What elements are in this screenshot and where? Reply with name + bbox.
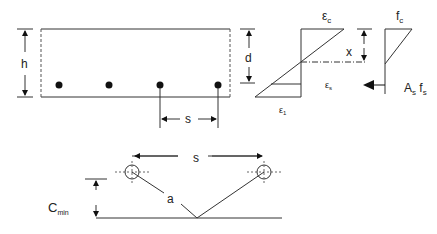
crack-width-diagram: h s d εc εs ε1 x (0, 0, 437, 234)
steel-force-label: As fs (404, 81, 427, 97)
concrete-stress-label: fc (396, 9, 403, 25)
spacing-label: s (185, 112, 191, 126)
height-label: h (21, 57, 28, 71)
cover-label: Cmin (48, 200, 69, 216)
bar-spacing-label: s (193, 151, 199, 165)
depth-dimension: d (240, 29, 255, 83)
strain-diagram: εc εs ε1 (255, 9, 366, 116)
distance-label: a (167, 192, 174, 206)
neutral-axis-dimension: x (346, 29, 372, 60)
neutral-axis-label: x (346, 45, 352, 59)
rebar (106, 82, 113, 89)
rebar (215, 82, 222, 89)
beam-section (41, 29, 230, 97)
height-dimension: h (17, 29, 33, 97)
rebar (56, 82, 63, 89)
depth-label: d (245, 51, 252, 65)
cover-diagram: s a Cmin (48, 150, 283, 218)
rebar (157, 82, 164, 89)
spacing-dimension: s (160, 88, 218, 128)
steel-strain-label: εs (325, 80, 332, 91)
top-strain-label: εc (322, 9, 331, 25)
bottom-strain-label: ε1 (279, 105, 287, 116)
stress-diagram: fc As fs (363, 9, 427, 97)
